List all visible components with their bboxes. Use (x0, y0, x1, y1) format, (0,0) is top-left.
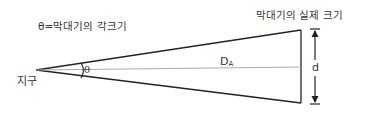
distance-label-subscript: A (228, 60, 233, 68)
arrowhead-up-icon (312, 30, 319, 37)
size-label: d (312, 61, 319, 74)
lower-sight-line (36, 70, 301, 103)
distance-center-line (36, 67, 301, 70)
earth-label: 지구 (17, 76, 37, 87)
angular-size-diagram: θ=막대기의 각크기 막대기의 실제 크기 지구 θ DA d (0, 0, 369, 115)
angle-symbol-label: θ (84, 65, 90, 75)
angle-definition-label: θ=막대기의 각크기 (38, 21, 127, 32)
distance-label: DA (220, 56, 233, 68)
arrowhead-down-icon (312, 96, 319, 103)
upper-sight-line (36, 30, 301, 70)
actual-size-label: 막대기의 실제 크기 (256, 10, 343, 21)
